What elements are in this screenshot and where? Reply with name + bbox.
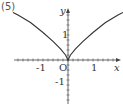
x-axis-label: x	[114, 63, 120, 73]
y-axis-arrow-icon	[66, 8, 70, 13]
chart-plot	[0, 0, 123, 108]
y-tick-label-neg1: -1	[55, 77, 65, 87]
y-axis-label: y	[60, 6, 66, 16]
y-tick-label-1: 1	[62, 30, 68, 40]
origin-label: O	[59, 63, 67, 73]
x-tick-label-1: 1	[91, 63, 97, 73]
x-tick-label-neg1: -1	[36, 63, 46, 73]
